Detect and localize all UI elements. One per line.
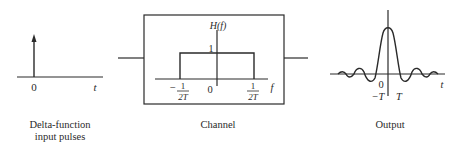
neg-T-label: −T [372,91,386,102]
channel-caption: Channel [201,119,236,130]
input-caption-line1: Delta-function [29,119,91,130]
output-t-label: t [441,79,445,90]
input-t-label: t [93,81,97,93]
H-of-f-label: H(f) [209,20,227,32]
input-caption-line2: input pulses [35,131,85,142]
channel-panel: H(f) 1 0 f − 1 2T 1 2T Channel [118,15,308,130]
output-zero-label: 0 [378,79,383,90]
pos-edge-numerator: 1 [251,81,256,91]
input-zero-label: 0 [31,81,37,93]
neg-edge-denominator: 2T [178,92,189,102]
unit-gain-label: 1 [209,43,214,54]
neg-edge-numerator: 1 [181,81,186,91]
input-panel: 0 t Delta-function input pulses [17,34,103,142]
output-panel: 0 t −T T Output [330,10,445,130]
neg-edge-sign: − [170,82,176,93]
f-axis-label: f [271,82,276,93]
output-caption: Output [375,119,404,130]
channel-zero-label: 0 [207,84,212,95]
pos-T-label: T [396,91,403,102]
delta-arrowhead-icon [32,34,37,42]
pos-edge-denominator: 2T [248,92,259,102]
channel-diagram: 0 t Delta-function input pulses H(f) 1 0… [0,0,458,147]
